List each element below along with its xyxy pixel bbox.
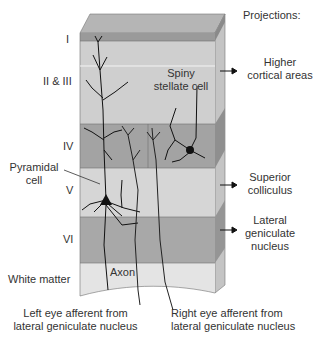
layer-label-V: V xyxy=(66,184,73,197)
layer-label-I: I xyxy=(66,33,69,46)
layer-label-white-matter: White matter xyxy=(8,273,70,286)
right-eye-afferent-label: Right eye afferent from lateral genicula… xyxy=(171,307,295,333)
layer-I xyxy=(80,33,215,41)
layer-label-II-III: II & III xyxy=(43,75,72,88)
layer-IV xyxy=(80,124,215,168)
block-top-face xyxy=(80,14,225,33)
spiny-stellate-label: Spiny stellate cell xyxy=(146,67,216,93)
layer-V xyxy=(80,168,215,217)
pyramidal-label: Pyramidal cell xyxy=(6,161,62,187)
projection-higher-cortical: Higher cortical areas xyxy=(240,56,319,82)
axon-label: Axon xyxy=(110,266,135,279)
projections-header: Projections: xyxy=(243,9,300,22)
layer-VI xyxy=(80,217,215,263)
layer-label-IV: IV xyxy=(63,140,73,153)
layer-label-VI: VI xyxy=(63,233,73,246)
projection-lateral-geniculate: Lateral geniculate nucleus xyxy=(240,214,300,253)
left-eye-afferent-label: Left eye afferent from lateral geniculat… xyxy=(8,307,143,333)
projection-superior-colliculus: Superior colliculus xyxy=(240,171,300,197)
